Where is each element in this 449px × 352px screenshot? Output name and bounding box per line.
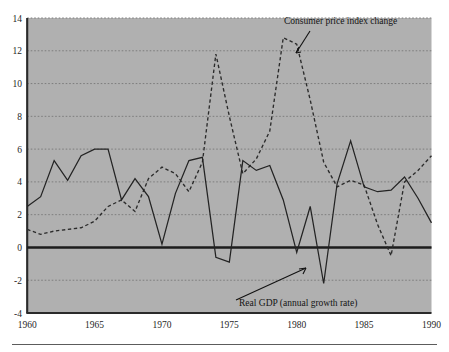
- y-tick-label-8: 8: [17, 112, 22, 122]
- x-tick-label-1980: 1980: [287, 320, 306, 330]
- y-tick-label-2: 2: [17, 210, 22, 220]
- plot-area-background: [27, 18, 432, 313]
- y-tick-label-14: 14: [13, 14, 23, 24]
- y-tick-label-12: 12: [13, 46, 23, 56]
- y-tick-label--2: -2: [14, 276, 22, 286]
- economic-indicators-chart: -4-202468101214 196019651970197519801985…: [0, 0, 449, 352]
- y-tick-label--4: -4: [14, 309, 22, 319]
- gdp-annotation-label: Real GDP (annual growth rate): [239, 298, 357, 309]
- x-tick-label-1990: 1990: [422, 320, 441, 330]
- cpi-annotation-label: Consumer price index change: [284, 16, 397, 26]
- y-tick-label-4: 4: [17, 177, 22, 187]
- y-tick-label-10: 10: [13, 79, 23, 89]
- chart-canvas: -4-202468101214 196019651970197519801985…: [0, 0, 449, 352]
- x-tick-label-1975: 1975: [220, 320, 239, 330]
- y-tick-label-6: 6: [17, 145, 22, 155]
- y-tick-label-0: 0: [17, 243, 22, 253]
- x-tick-label-1985: 1985: [355, 320, 374, 330]
- x-tick-label-1965: 1965: [85, 320, 104, 330]
- x-tick-label-1970: 1970: [152, 320, 171, 330]
- x-tick-label-1960: 1960: [18, 320, 37, 330]
